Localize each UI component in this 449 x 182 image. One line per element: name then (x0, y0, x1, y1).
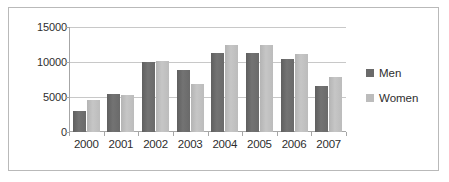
bar-women-2005 (260, 45, 273, 133)
bar-women-2006 (295, 54, 308, 132)
legend-item-men[interactable]: Men (366, 67, 436, 79)
x-axis-tick-marks (69, 132, 346, 136)
bar-men-2002 (142, 62, 155, 132)
plot-area (69, 27, 346, 132)
bar-group (69, 27, 104, 132)
chart-legend: MenWomen (366, 67, 436, 117)
x-axis-tick-mark (138, 132, 139, 136)
x-axis-label-2004: 2004 (208, 138, 243, 158)
x-axis-tick-mark (104, 132, 105, 136)
legend-item-women[interactable]: Women (366, 92, 436, 104)
bar-women-2007 (329, 77, 342, 132)
chart-frame: 050001000015000 200020012002200320042005… (8, 7, 439, 171)
bar-group (173, 27, 208, 132)
bar-groups (69, 27, 346, 132)
bar-men-2006 (281, 59, 294, 132)
bar-group (104, 27, 139, 132)
x-axis-label-2005: 2005 (242, 138, 277, 158)
bar-group (138, 27, 173, 132)
bar-group (208, 27, 243, 132)
legend-label: Men (379, 67, 401, 79)
x-axis-labels: 20002001200220032004200520062007 (69, 138, 346, 158)
legend-label: Women (379, 92, 418, 104)
x-axis-label-2001: 2001 (104, 138, 139, 158)
bar-women-2004 (225, 45, 238, 133)
bar-men-2007 (315, 86, 328, 132)
bar-men-2000 (73, 111, 86, 132)
y-axis-tick-label: 0 (15, 126, 67, 138)
x-axis-tick-mark (242, 132, 243, 136)
bar-group (277, 27, 312, 132)
x-axis-tick-mark (208, 132, 209, 136)
legend-swatch-icon (366, 94, 374, 102)
bar-women-2003 (191, 84, 204, 132)
x-axis-tick-mark (173, 132, 174, 136)
bar-group (242, 27, 277, 132)
x-axis-tick-mark (311, 132, 312, 136)
y-axis-tick-label: 15000 (15, 21, 67, 33)
x-axis-tick-mark (69, 132, 70, 136)
legend-swatch-icon (366, 69, 374, 77)
y-axis-tick-label: 10000 (15, 56, 67, 68)
bar-men-2005 (246, 53, 259, 132)
x-axis-label-2003: 2003 (173, 138, 208, 158)
bar-women-2000 (87, 100, 100, 132)
bar-group (311, 27, 346, 132)
bar-men-2001 (107, 94, 120, 133)
y-axis-tick-label: 5000 (15, 91, 67, 103)
x-axis-label-2002: 2002 (138, 138, 173, 158)
x-axis-tick-mark (346, 132, 347, 136)
bar-men-2004 (211, 53, 224, 132)
x-axis-label-2000: 2000 (69, 138, 104, 158)
x-axis-label-2006: 2006 (277, 138, 312, 158)
bar-women-2001 (121, 95, 134, 132)
bar-women-2002 (156, 61, 169, 132)
y-axis-labels: 050001000015000 (9, 27, 67, 132)
x-axis-tick-mark (277, 132, 278, 136)
bar-men-2003 (177, 70, 190, 132)
x-axis-label-2007: 2007 (311, 138, 346, 158)
